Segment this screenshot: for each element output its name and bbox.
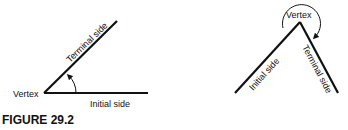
left-terminal-label: Terminal side [64, 20, 109, 64]
right-initial-side [235, 22, 300, 93]
angle-diagram: Vertex Initial side Terminal side Vertex… [0, 0, 348, 130]
right-terminal-label: Terminal side [300, 43, 334, 95]
left-terminal-side [44, 21, 117, 93]
left-angle: Vertex Initial side Terminal side [13, 20, 148, 109]
right-vertex-label: Vertex [286, 10, 312, 20]
left-angle-arc-icon [69, 76, 76, 93]
figure-caption: FIGURE 29.2 [2, 113, 74, 127]
right-angle: Vertex Initial side Terminal side [235, 5, 338, 95]
left-vertex-label: Vertex [13, 89, 39, 99]
left-initial-label: Initial side [90, 99, 130, 109]
